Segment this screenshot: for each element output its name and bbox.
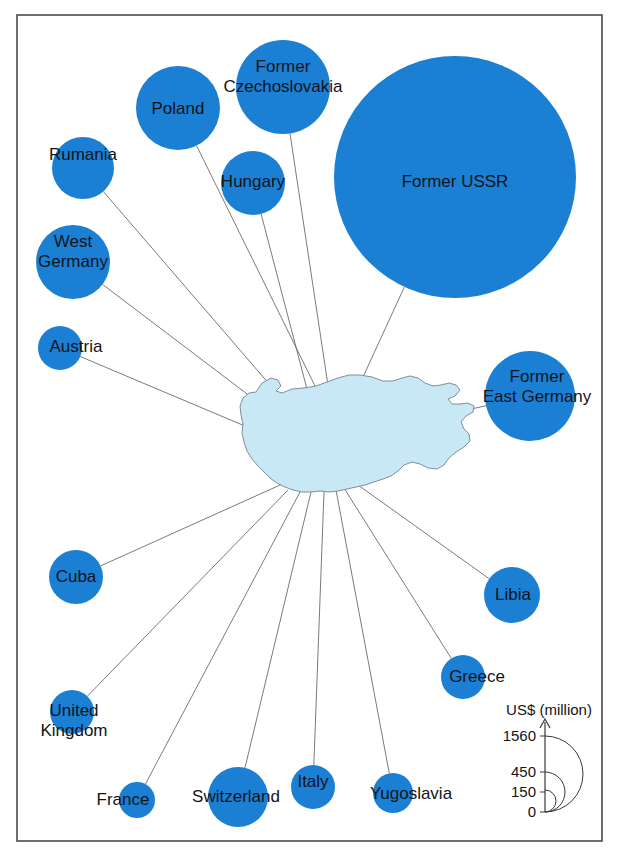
bubble-label-line: Kingdom (40, 721, 107, 740)
bubble-label: Greece (449, 667, 505, 686)
bubble-label-line: Poland (152, 99, 205, 118)
bubble-label-line: Czechoslovakia (223, 77, 343, 96)
bubble-label-line: United (49, 701, 98, 720)
bubble-label-line: Italy (297, 772, 329, 791)
bubble-italy[interactable]: Italy (291, 765, 335, 809)
bubble-label-line: Former USSR (402, 172, 509, 191)
bubble-label: Hungary (221, 172, 286, 191)
legend-arc (545, 790, 556, 812)
bubble-label: Italy (297, 772, 329, 791)
bubble-france[interactable]: France (97, 782, 155, 818)
bubble-label-line: East Germany (483, 387, 592, 406)
legend-arc (545, 736, 583, 812)
bubble-label-line: Germany (38, 252, 108, 271)
bubble-label: Cuba (56, 567, 97, 586)
bubble-label: FormerCzechoslovakia (223, 57, 343, 96)
bubble-label-line: Yugoslavia (370, 784, 453, 803)
leader-line (261, 214, 308, 393)
bubble-label-line: Cuba (56, 567, 97, 586)
bubble-former-czechoslovakia[interactable]: FormerCzechoslovakia (223, 40, 343, 134)
leader-line (101, 481, 289, 566)
bubble-label: France (97, 790, 150, 809)
figure-canvas: PolandFormerCzechoslovakiaHungaryFormer … (0, 0, 619, 857)
bubble-hungary[interactable]: Hungary (221, 151, 286, 215)
bubble-map-figure: PolandFormerCzechoslovakiaHungaryFormer … (0, 0, 619, 857)
bubble-rumania[interactable]: Rumania (49, 137, 118, 199)
legend-unit-label: US$ (million) (506, 701, 592, 718)
bubble-label-line: Greece (449, 667, 505, 686)
bubble-switzerland[interactable]: Switzerland (192, 767, 280, 827)
bubble-label: Switzerland (192, 787, 280, 806)
bubble-former-ussr[interactable]: Former USSR (334, 56, 576, 298)
leader-line (336, 490, 389, 773)
legend: US$ (million)15604501500 (503, 701, 592, 820)
legend-tick-label: 450 (511, 763, 536, 780)
bubble-austria[interactable]: Austria (38, 326, 103, 370)
bubble-cuba[interactable]: Cuba (49, 550, 103, 604)
bubble-yugoslavia[interactable]: Yugoslavia (370, 773, 453, 813)
bubble-greece[interactable]: Greece (441, 655, 505, 699)
bubble-label: UnitedKingdom (40, 701, 107, 740)
bubble-label-line: Hungary (221, 172, 286, 191)
bubble-label-line: Rumania (49, 145, 118, 164)
bubble-former-east-germany[interactable]: FormerEast Germany (483, 351, 592, 441)
bubble-label: Rumania (49, 145, 118, 164)
legend-tick-label: 1560 (503, 727, 536, 744)
bubble-label: Yugoslavia (370, 784, 453, 803)
bubble-label-line: Austria (50, 337, 103, 356)
bubble-united-kingdom[interactable]: UnitedKingdom (40, 690, 107, 740)
bubble-west-germany[interactable]: WestGermany (36, 225, 110, 299)
leader-line (314, 492, 324, 765)
legend-tick-label: 150 (511, 783, 536, 800)
leader-line (87, 490, 288, 696)
bubble-label: Poland (152, 99, 205, 118)
bubble-label-line: Former (256, 57, 311, 76)
bubble-label-line: Switzerland (192, 787, 280, 806)
bubble-label-line: Former (510, 367, 565, 386)
bubble-libia[interactable]: Libia (484, 567, 540, 623)
leader-line (358, 485, 489, 579)
legend-tick-label: 0 (528, 803, 536, 820)
bubble-label: Austria (50, 337, 103, 356)
bulgaria-map-path (240, 375, 474, 492)
bulgaria-map-shape (240, 375, 474, 492)
bubble-label: Former USSR (402, 172, 509, 191)
bubble-label-line: Libia (495, 585, 531, 604)
bubble-label-line: France (97, 790, 150, 809)
bubble-poland[interactable]: Poland (136, 66, 220, 150)
leader-line (290, 133, 329, 392)
leader-line (145, 492, 300, 784)
bubble-label-line: West (54, 232, 93, 251)
leader-line (357, 287, 404, 390)
bubble-label: Libia (495, 585, 531, 604)
